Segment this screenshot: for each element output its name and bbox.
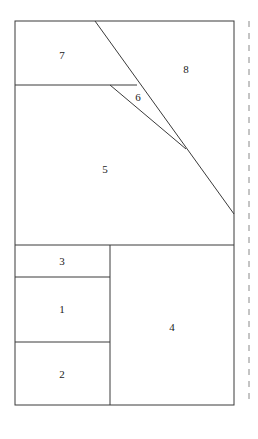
region-label-4: 4 (169, 322, 175, 333)
region-label-1: 1 (59, 304, 65, 315)
outer-rectangle-outline (15, 21, 234, 405)
region-label-8: 8 (183, 64, 189, 75)
region-label-5: 5 (102, 164, 108, 175)
region-label-3: 3 (59, 256, 65, 267)
figure-canvas: 78653142 (0, 0, 258, 439)
region-label-2: 2 (59, 369, 65, 380)
figure-svg (0, 0, 258, 439)
internal-partition-lines (15, 21, 234, 405)
region-label-6: 6 (135, 92, 141, 103)
diagonal-long-cut (95, 21, 234, 214)
region-label-7: 7 (59, 50, 65, 61)
